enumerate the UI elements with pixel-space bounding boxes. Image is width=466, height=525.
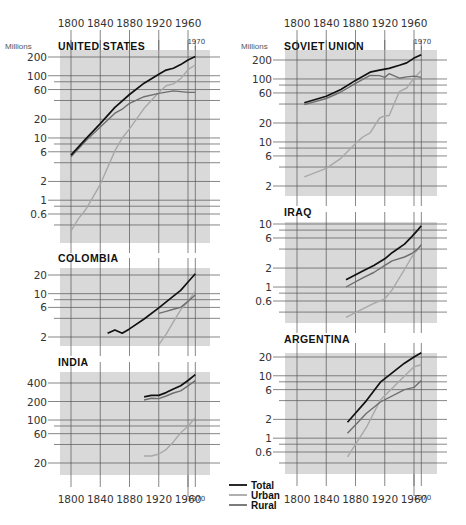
panel-background <box>60 268 210 346</box>
x-tick-label-bottom: 1880 <box>342 493 369 505</box>
x-tick-label-top: 1960 <box>401 17 428 29</box>
panel-title: INDIA <box>58 356 89 368</box>
y-tick-label: 100 <box>252 73 272 85</box>
y-tick-label: 10 <box>259 136 272 148</box>
y-tick-label: 0.6 <box>255 446 272 458</box>
panel-iraq: 106210.6IRAQ <box>255 206 447 333</box>
y-tick-label: 10 <box>34 288 47 300</box>
x-tick-label-bottom: 1800 <box>58 493 85 505</box>
x-tick-label-top: 1920 <box>145 17 172 29</box>
panel-title: SOVIET UNION <box>284 40 364 52</box>
x-tick-label-top: 1800 <box>284 17 311 29</box>
unit-label: Millions <box>241 42 268 51</box>
y-tick-label: 100 <box>27 414 47 426</box>
x-tick-label-top: 1920 <box>371 17 398 29</box>
x-tick-label-top: 1800 <box>58 17 85 29</box>
x-tick-label-bottom: 1800 <box>284 493 311 505</box>
unit-label: Millions <box>5 42 32 51</box>
panel-background <box>60 372 210 475</box>
y-tick-label: 20 <box>34 269 47 281</box>
panel-india: 4002001006020INDIA1970180018401880192019… <box>27 356 220 505</box>
y-tick-label: 6 <box>40 146 47 158</box>
y-tick-label: 20 <box>259 351 272 363</box>
legend: Total Urban Rural <box>229 480 280 511</box>
panel-united-states: 2001006020106210.6UNITED STATESMillions1… <box>5 17 220 253</box>
panel-soviet-union: 20010060201062SOVIET UNIONMillions180018… <box>241 17 447 206</box>
y-tick-label: 200 <box>27 51 47 63</box>
end-year-label: 1970 <box>187 38 205 46</box>
y-tick-label: 1 <box>40 194 47 206</box>
y-tick-label: 6 <box>265 384 272 396</box>
y-tick-label: 2 <box>265 262 272 274</box>
x-tick-label-top: 1960 <box>175 17 202 29</box>
y-tick-label: 1 <box>265 281 272 293</box>
y-tick-label: 60 <box>259 87 272 99</box>
y-tick-label: 10 <box>259 370 272 382</box>
y-tick-label: 20 <box>34 457 47 469</box>
panel-colombia: 201062COLOMBIA <box>34 252 220 356</box>
x-tick-label-top: 1840 <box>313 17 340 29</box>
panel-title: IRAQ <box>284 206 312 218</box>
x-tick-label-top: 1840 <box>87 17 114 29</box>
y-tick-label: 200 <box>252 54 272 66</box>
y-tick-label: 10 <box>259 218 272 230</box>
y-tick-label: 60 <box>34 428 47 440</box>
y-tick-labels: 201062 <box>34 269 48 343</box>
x-tick-label-bottom: 1840 <box>87 493 114 505</box>
y-tick-label: 2 <box>265 180 272 192</box>
y-tick-label: 2 <box>40 331 47 343</box>
x-tick-label-top: 1880 <box>342 17 369 29</box>
y-tick-label: 100 <box>27 70 47 82</box>
urbanization-figure: 2001006020106210.6UNITED STATESMillions1… <box>0 0 466 525</box>
y-tick-labels: 4002001006020 <box>27 377 47 469</box>
y-tick-label: 0.6 <box>30 208 47 220</box>
end-year-label: 1970 <box>413 38 431 46</box>
y-tick-label: 400 <box>27 377 47 389</box>
panel-title: COLOMBIA <box>58 252 118 264</box>
x-tick-label-top: 1880 <box>116 17 143 29</box>
x-tick-label-bottom: 1840 <box>313 493 340 505</box>
y-tick-label: 0.6 <box>255 295 272 307</box>
legend-rural-label: Rural <box>251 500 277 511</box>
y-tick-label: 6 <box>40 301 47 313</box>
y-tick-label: 6 <box>265 232 272 244</box>
y-tick-label: 2 <box>40 175 47 187</box>
panel-title: ARGENTINA <box>284 333 350 345</box>
horizontal-gridlines <box>273 60 447 186</box>
y-tick-label: 2 <box>265 413 272 425</box>
y-tick-label: 6 <box>265 150 272 162</box>
x-tick-label-bottom: 1920 <box>145 493 172 505</box>
y-tick-label: 10 <box>34 132 47 144</box>
y-tick-label: 60 <box>34 84 47 96</box>
y-tick-label: 20 <box>259 117 272 129</box>
y-tick-label: 200 <box>27 396 47 408</box>
y-tick-labels: 20106210.6 <box>255 351 272 458</box>
y-tick-label: 20 <box>34 113 47 125</box>
x-tick-label-bottom: 1880 <box>116 493 143 505</box>
y-tick-labels: 106210.6 <box>255 218 272 307</box>
y-tick-label: 1 <box>265 432 272 444</box>
y-tick-labels: 2001006020106210.6 <box>27 51 47 220</box>
panel-argentina: 20106210.6ARGENTINA197018001840188019201… <box>255 333 447 505</box>
x-tick-label-bottom: 1920 <box>371 493 398 505</box>
panels: 2001006020106210.6UNITED STATESMillions1… <box>5 17 447 505</box>
y-tick-labels: 20010060201062 <box>252 54 272 192</box>
